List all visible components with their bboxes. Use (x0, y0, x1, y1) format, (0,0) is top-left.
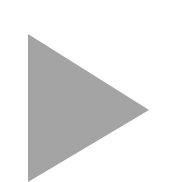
play-icon[interactable] (0, 0, 177, 182)
icon-canvas (0, 0, 177, 182)
play-triangle (28, 34, 149, 182)
